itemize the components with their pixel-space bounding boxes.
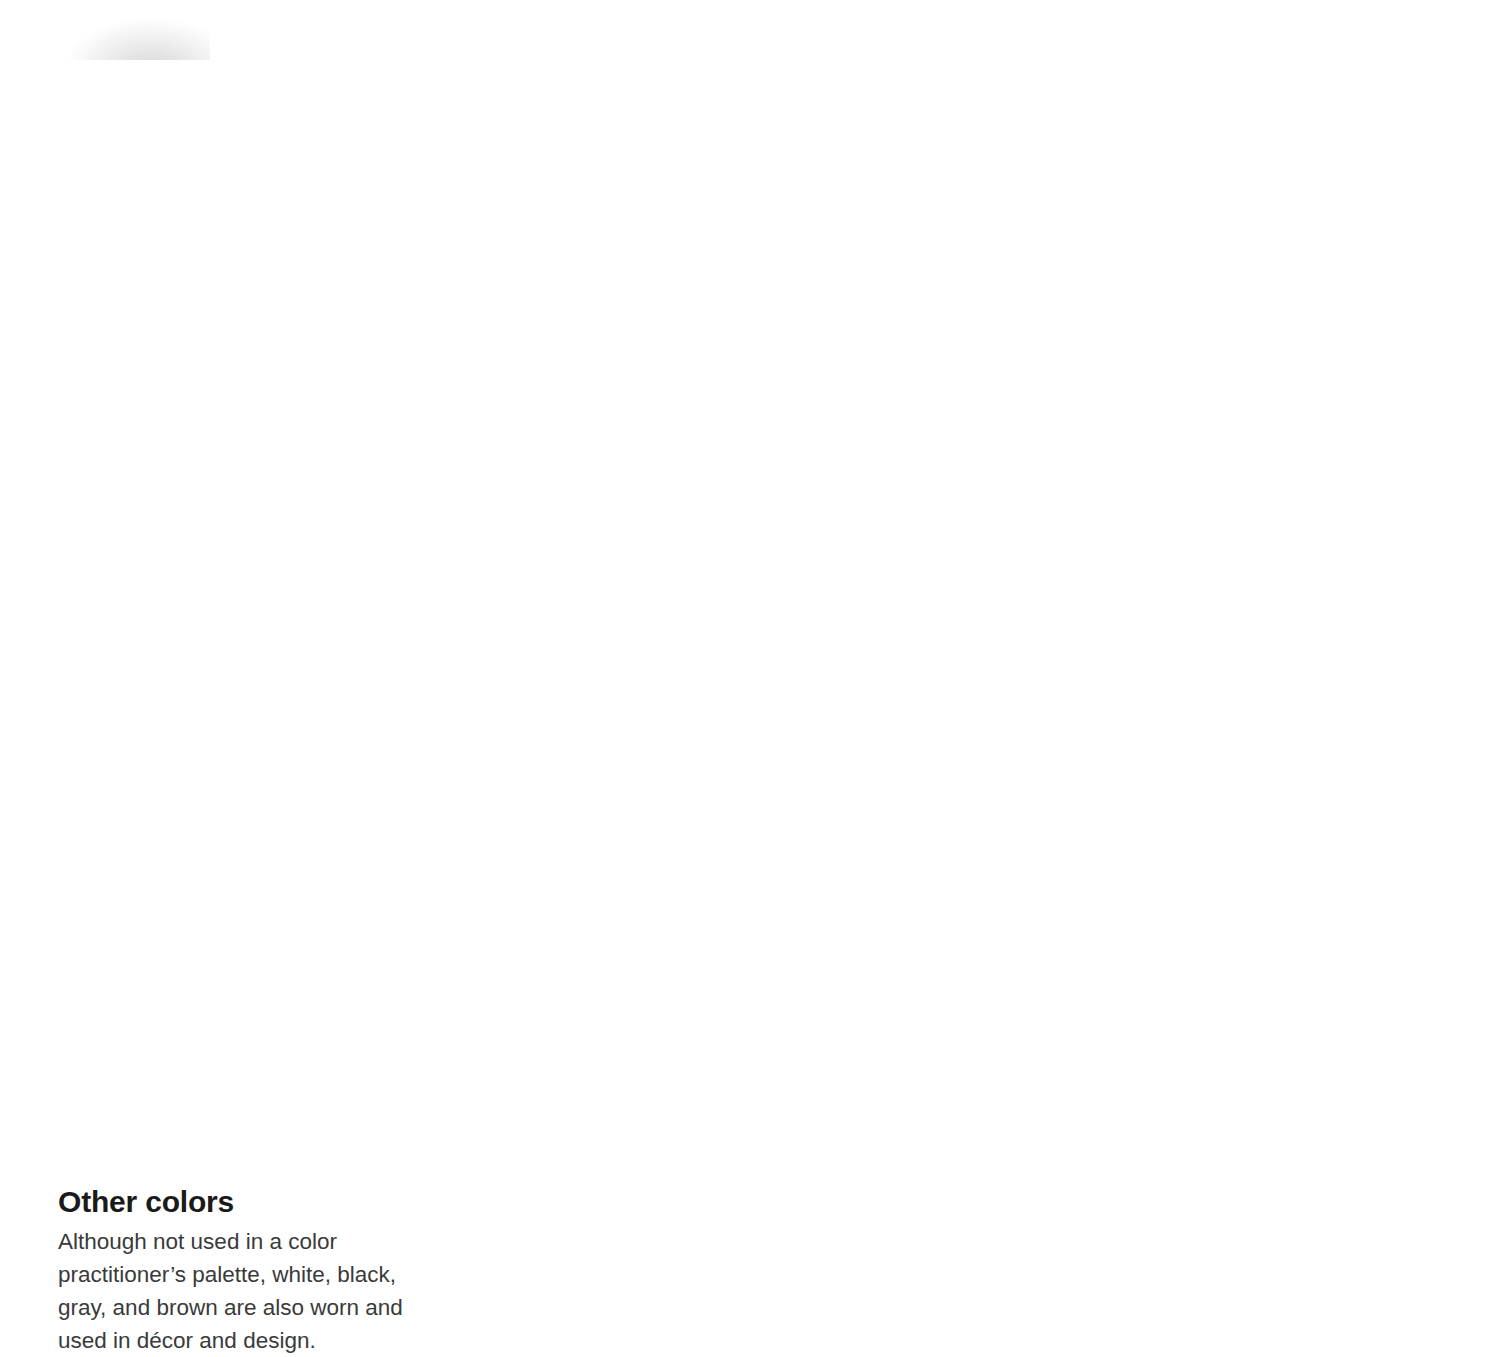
other-colors-block: Other colors Although not used in a colo… (58, 1185, 418, 1357)
color-fan-figure: GOLD SPIRITUALLY WISE, MATURE, COMPASSIO… (0, 0, 1497, 1357)
fan-blades-group (0, 0, 1497, 1357)
other-colors-heading: Other colors (58, 1185, 418, 1219)
other-colors-body: Although not used in a color practitione… (58, 1225, 418, 1357)
